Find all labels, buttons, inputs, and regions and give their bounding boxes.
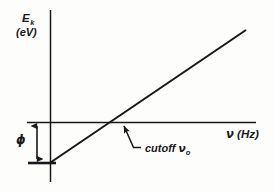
cutoff-symbol: ν	[175, 142, 186, 155]
x-axis-unit-label: (Hz)	[237, 128, 259, 140]
x-axis-label-symbol: ν	[226, 127, 234, 141]
cutoff-subscript: o	[186, 148, 191, 157]
work-function-label: ϕ	[16, 134, 26, 147]
photoelectric-graph-figure: Ek (eV) ν (Hz) ϕ cutoffνo	[0, 0, 275, 192]
y-axis-label-symbol: E	[22, 12, 30, 24]
cutoff-frequency-label: cutoffνo	[145, 143, 190, 157]
cutoff-text: cutoff	[145, 142, 175, 154]
y-axis-unit-label: (eV)	[16, 27, 37, 39]
plot-canvas	[0, 0, 275, 192]
y-axis-label: Ek	[22, 12, 34, 27]
cutoff-leader-line	[124, 126, 141, 148]
x-axis-label: ν (Hz)	[226, 128, 259, 140]
